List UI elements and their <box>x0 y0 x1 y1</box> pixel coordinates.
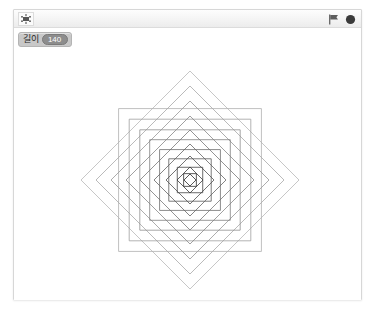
green-flag-glyph <box>327 13 340 26</box>
turtle-drawing-canvas <box>14 28 361 300</box>
drawing-square <box>166 156 214 204</box>
drawing-square <box>150 140 231 221</box>
drawing-square <box>140 130 240 230</box>
green-flag-icon[interactable] <box>327 13 340 26</box>
drawing-square <box>169 159 211 201</box>
stage-toolbar <box>14 10 361 28</box>
stop-button-icon[interactable] <box>344 13 357 26</box>
drawing-square <box>111 101 269 259</box>
stage-area[interactable]: 길이 140 <box>14 28 361 300</box>
stage-window: 길이 140 <box>13 9 362 300</box>
stage-window-screenshot: 길이 140 <box>0 0 376 311</box>
drawing-square <box>177 167 202 192</box>
drawing-square <box>184 174 196 186</box>
drawing-square <box>140 130 240 230</box>
drawing-square <box>96 86 284 274</box>
drawing-square <box>184 174 197 187</box>
drawing-square <box>126 116 254 244</box>
drawing-square <box>177 167 203 193</box>
variable-watcher[interactable]: 길이 140 <box>18 32 72 47</box>
variable-watcher-label: 길이 <box>23 35 39 44</box>
toolbar-controls <box>327 12 357 26</box>
drawing-square <box>129 119 251 241</box>
variable-watcher-value: 140 <box>42 34 68 45</box>
sprite-thumbnail-glyph <box>18 12 34 26</box>
drawing-square <box>81 71 299 289</box>
stop-button-glyph <box>344 13 357 26</box>
sprite-thumbnail-icon[interactable] <box>18 12 34 26</box>
